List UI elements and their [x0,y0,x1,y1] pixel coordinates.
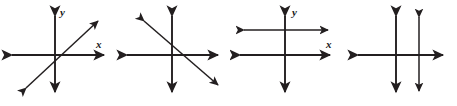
graph-panel-1: x y [0,0,115,106]
panel-3-graph [230,0,343,106]
graph-panel-2: x y [115,0,230,106]
panel-1-y-axis-label: y [60,7,65,18]
graph-panel-3: x y [230,0,343,106]
panel-1-x-axis-label: x [96,39,102,50]
panel-2-line-negative-slope [144,21,218,85]
panel-4-graph [343,0,457,106]
panel-2-graph [115,0,230,106]
panel-1-graph [0,0,115,106]
graph-panel-4: x y [343,0,457,106]
linear-systems-figure: x y x y x y [0,0,457,106]
